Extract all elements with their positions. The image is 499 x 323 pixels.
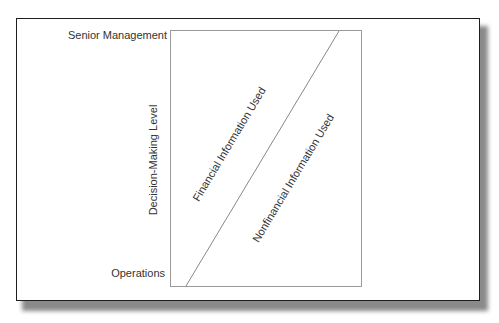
plot-area	[170, 30, 362, 287]
y-axis-label: Decision-Making Level	[147, 105, 159, 216]
y-top-label: Senior Management	[68, 29, 167, 41]
y-bottom-label: Operations	[111, 267, 165, 279]
